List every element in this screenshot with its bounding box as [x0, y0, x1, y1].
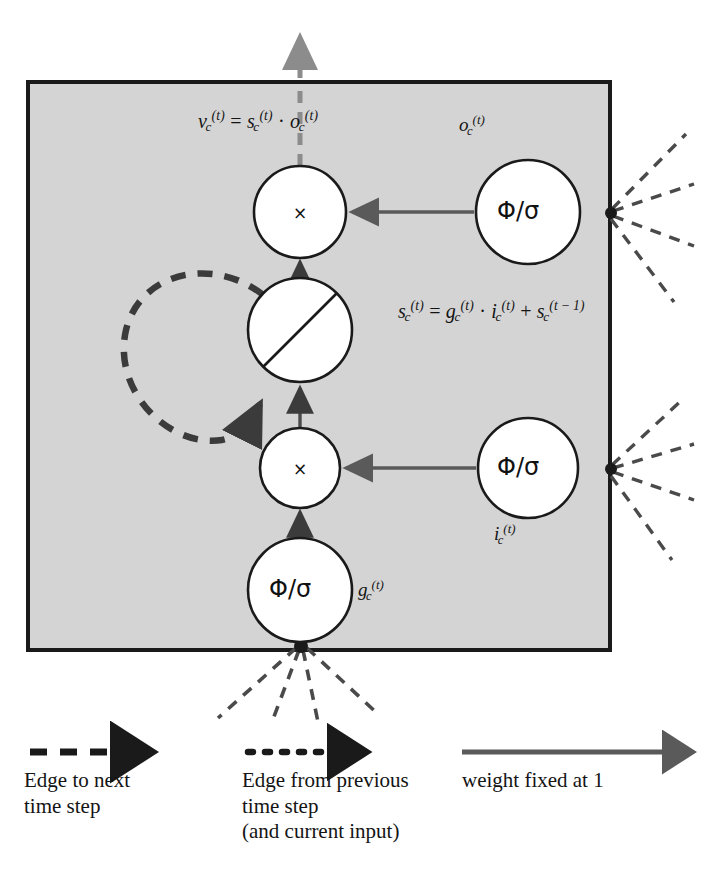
- diagram-canvas: [0, 0, 722, 874]
- input-gate-glyph: Φ/σ: [497, 453, 539, 481]
- output-gate-input-fan: [605, 134, 694, 302]
- output-gate-label: oc(t): [459, 112, 485, 139]
- legend-edge-from-previous-line3: (and current input): [242, 819, 409, 845]
- output-equation: vc(t) = sc(t) · oc(t): [198, 108, 318, 135]
- cell-input-glyph: Φ/σ: [269, 575, 311, 603]
- legend-edge-from-previous-line1: Edge from previous: [242, 768, 409, 794]
- legend-edge-to-next: Edge to next time step: [24, 768, 130, 819]
- legend-edge-to-next-line1: Edge to next: [24, 768, 130, 794]
- legend-edge-from-previous-line2: time step: [242, 794, 409, 820]
- input-gate-label: ic(t): [494, 521, 516, 548]
- input-multiply-glyph: ×: [293, 459, 307, 479]
- output-multiply-glyph: ×: [293, 203, 307, 223]
- legend-edge-to-next-line2: time step: [24, 794, 130, 820]
- legend-weight-fixed: weight fixed at 1: [462, 768, 604, 794]
- cell-input-label: gc(t): [358, 577, 384, 604]
- legend-edge-from-previous: Edge from previous time step (and curren…: [242, 768, 409, 845]
- lstm-cell-diagram: × × Φ/σ Φ/σ Φ/σ vc(t) = sc(t) · oc(t) sc…: [0, 0, 722, 874]
- output-gate-glyph: Φ/σ: [497, 197, 539, 225]
- state-equation: sc(t) = gc(t) · ic(t) + sc(t − 1): [398, 298, 585, 325]
- input-gate-input-fan: [605, 398, 694, 560]
- legend-weight-fixed-line1: weight fixed at 1: [462, 768, 604, 794]
